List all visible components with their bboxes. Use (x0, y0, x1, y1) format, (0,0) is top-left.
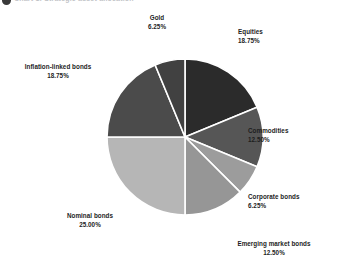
slice-label-emerging-market-bonds: Emerging market bonds 12.50% (212, 239, 336, 257)
slice-label-nominal-bonds: Nominal bonds 25.00% (38, 211, 142, 229)
slice-label-nominal-bonds-percent: 25.00% (38, 220, 142, 229)
slice-label-commodities-percent: 12.50% (248, 135, 340, 144)
slice-label-emerging-market-bonds-name: Emerging market bonds (237, 240, 310, 247)
slice-label-gold: Gold 6.25% (118, 13, 196, 31)
pie-slice-nominal-bonds (107, 137, 185, 215)
slice-label-corporate-bonds-name: Corporate bonds (248, 193, 299, 200)
pie-chart: Gold 6.25% Equities 18.75% Commodities 1… (0, 0, 352, 267)
slice-label-commodities-name: Commodities (248, 127, 288, 134)
slice-label-equities: Equities 18.75% (238, 27, 324, 45)
slice-label-inflation-linked-bonds-percent: 18.75% (2, 71, 114, 80)
slice-label-equities-name: Equities (238, 28, 263, 35)
pie-slice-group (107, 59, 263, 215)
slice-label-emerging-market-bonds-percent: 12.50% (212, 248, 336, 257)
slice-label-gold-name: Gold (150, 14, 165, 21)
slice-label-corporate-bonds: Corporate bonds 6.25% (248, 192, 344, 210)
slice-label-equities-percent: 18.75% (238, 36, 324, 45)
slice-label-inflation-linked-bonds-name: Inflation-linked bonds (25, 63, 92, 70)
slice-label-corporate-bonds-percent: 6.25% (248, 201, 344, 210)
slice-label-commodities: Commodities 12.50% (248, 126, 340, 144)
slice-label-inflation-linked-bonds: Inflation-linked bonds 18.75% (2, 62, 114, 80)
slice-label-gold-percent: 6.25% (118, 22, 196, 31)
slice-label-nominal-bonds-name: Nominal bonds (67, 212, 113, 219)
